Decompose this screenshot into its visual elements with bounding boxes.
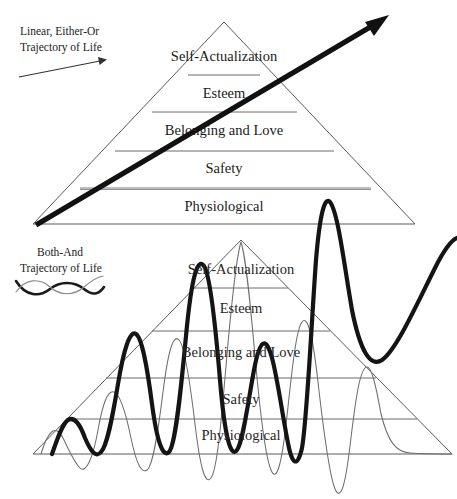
- lower-tier-label-belonging-and-love: Belonging and Love: [182, 344, 300, 360]
- lower-caption-line2: Trajectory of Life: [20, 262, 102, 275]
- upper-panel: Self-Actualization Esteem Belonging and …: [19, 15, 415, 225]
- straight-arrow-icon: [19, 57, 107, 77]
- lower-tier-label-safety: Safety: [222, 391, 260, 407]
- lower-tier-label-esteem: Esteem: [220, 300, 263, 316]
- upper-caption-line2: Trajectory of Life: [20, 41, 102, 54]
- linear-trajectory-arrowhead: [365, 15, 389, 36]
- double-helix-icon: [16, 276, 104, 294]
- both-and-wave-thin: [41, 242, 452, 493]
- upper-caption-line1: Linear, Either-Or: [20, 25, 99, 38]
- upper-tier-label-physiological: Physiological: [185, 198, 264, 214]
- figure-canvas: Self-Actualization Esteem Belonging and …: [0, 0, 457, 499]
- upper-tier-label-self-actualization: Self-Actualization: [171, 48, 278, 64]
- upper-tier-label-esteem: Esteem: [203, 85, 246, 101]
- lower-tier-label-physiological: Physiological: [202, 427, 281, 443]
- maslow-trajectory-figure: Self-Actualization Esteem Belonging and …: [0, 0, 457, 499]
- lower-panel: Both-And Trajectory of Life Self-Actuali…: [16, 201, 457, 494]
- lower-tier-label-self-actualization: Self-Actualization: [188, 261, 295, 277]
- caption-arrow-shaft: [19, 61, 100, 77]
- caption-arrow-head: [98, 57, 107, 65]
- upper-tier-label-safety: Safety: [205, 160, 243, 176]
- lower-caption-line1: Both-And: [37, 246, 83, 258]
